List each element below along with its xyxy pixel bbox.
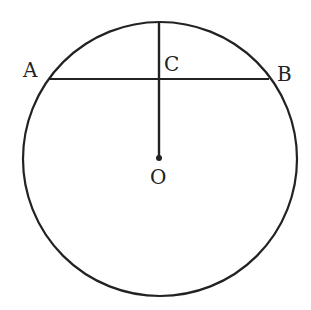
label-a: A	[22, 58, 38, 82]
label-o: O	[150, 165, 166, 189]
center-point-o	[156, 155, 162, 161]
label-c: C	[164, 52, 179, 76]
label-b: B	[277, 62, 292, 86]
circle-diagram: A C B O	[0, 0, 311, 310]
